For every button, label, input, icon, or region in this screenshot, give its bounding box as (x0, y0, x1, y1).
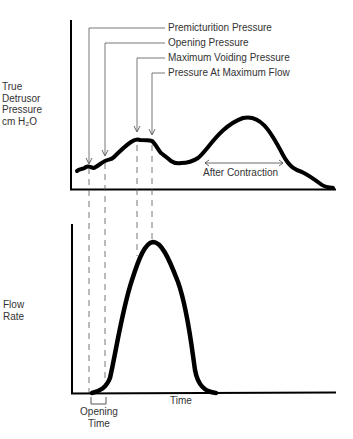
dashed-guides (89, 145, 152, 398)
after-contraction-label: After Contraction (203, 167, 278, 179)
pressure-axis-label-line: Detrusor (2, 93, 42, 105)
after-contraction-arrow (205, 160, 283, 166)
premicturition-pressure-label: Premicturition Pressure (168, 22, 272, 34)
pressure-axis-label-line: Pressure (2, 104, 42, 116)
pressure-at-maximum-flow-label: Pressure At Maximum Flow (168, 67, 290, 79)
maximum-voiding-pressure-label: Maximum Voiding Pressure (168, 52, 290, 64)
opening-time-label: Opening Time (76, 406, 122, 429)
pressure-max-flow-leader (152, 73, 165, 134)
urodynamics-diagram (0, 0, 353, 439)
pressure-axis-label-line: True (2, 81, 42, 93)
opening-time-label-line: Opening (76, 406, 122, 418)
max-voiding-leader (137, 58, 165, 131)
flow-axis-label-line: Flow (3, 299, 24, 311)
opening-time-label-line: Time (76, 418, 122, 430)
arrowheads (86, 126, 155, 164)
pressure-axis-label-line: cm H₂O (2, 116, 42, 128)
opening-pressure-label: Opening Pressure (168, 37, 249, 49)
opening-time-bracket (91, 397, 106, 404)
time-axis-label: Time (170, 395, 192, 407)
flow-axis-label: Flow Rate (3, 299, 24, 322)
pressure-axis-label: True Detrusor Pressure cm H₂O (2, 81, 42, 127)
flow-axis-label-line: Rate (3, 311, 24, 323)
flow-curve (92, 242, 216, 393)
